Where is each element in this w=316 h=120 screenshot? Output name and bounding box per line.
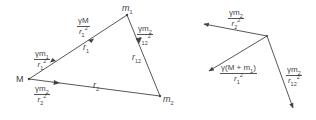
label-r2: r2 — [93, 81, 99, 90]
fraction-gm2-over-r2sq: γm2 r22 — [34, 85, 50, 104]
label-m1: m1 — [122, 4, 133, 13]
right-origin-point-icon — [266, 35, 268, 37]
side-arrows — [0, 0, 142, 85]
fraction-gm1-over-r1sq: γm1 r12 — [34, 50, 50, 69]
label-M: M — [16, 75, 24, 84]
fraction-gm2-over-r12sq: γm2 r122 — [137, 25, 153, 44]
fraction-right-gm2-over-r2sq: γm2 r22 — [228, 9, 244, 28]
fraction-right-gMm1-over-r1sq: γ(M + m1) r12 — [220, 64, 257, 83]
label-r1: r1 — [83, 43, 89, 52]
label-r12: r12 — [132, 53, 141, 62]
fraction-gM-over-r1sq: γM r12 — [77, 17, 90, 36]
point-M-icon — [28, 78, 30, 80]
fraction-right-gm2-over-r12sq: γm2 r122 — [286, 66, 302, 85]
point-m1-icon — [126, 14, 128, 16]
label-m2: m2 — [163, 95, 174, 104]
point-m2-icon — [159, 95, 161, 97]
